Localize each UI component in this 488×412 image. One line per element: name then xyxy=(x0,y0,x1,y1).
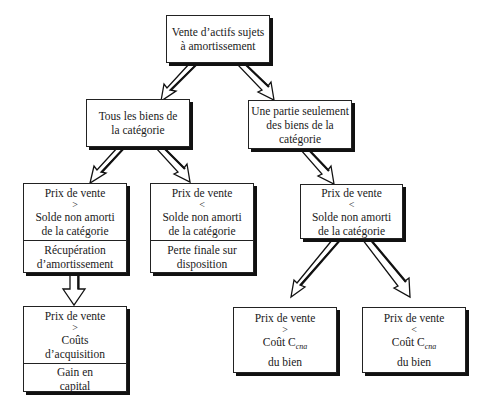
result-section: Perte finale sur disposition xyxy=(151,240,253,272)
condition-section: Prix de vente > Coûts d’acquisition xyxy=(24,307,126,363)
result-text: Perte finale sur xyxy=(167,243,237,257)
result-text: capital xyxy=(60,379,91,393)
condition-section: Prix de vente < Solde non amorti de la c… xyxy=(151,184,253,240)
arrow-gt-balance-to-acquisition-icon xyxy=(63,273,85,305)
node-text: la catégorie xyxy=(111,123,164,137)
node-root-sale-of-depreciable-assets: Vente d’actifs sujets à amortissement xyxy=(166,15,270,63)
result-text: Récupération xyxy=(44,243,105,257)
operator-text: < xyxy=(349,200,355,210)
node-part-assets: Une partie seulement des biens de la cat… xyxy=(248,100,352,149)
operator-text: < xyxy=(411,325,417,335)
arrow-root-to-part-assets-icon xyxy=(236,63,274,100)
node-price-gt-acquisition: Prix de vente > Coûts d’acquisition Gain… xyxy=(23,306,127,392)
node-text: des biens de la xyxy=(266,118,333,132)
node-text: Tous les biens de xyxy=(99,109,178,123)
arrow-root-to-all-assets-icon xyxy=(161,63,198,101)
arrow-all-to-lt-balance-icon xyxy=(155,147,190,182)
operator-text: < xyxy=(199,200,205,210)
node-text: d’acquisition xyxy=(45,347,105,361)
condition-section: Prix de vente > Solde non amorti de la c… xyxy=(24,184,126,240)
node-text: du bien xyxy=(268,355,302,369)
result-text: disposition xyxy=(177,257,227,271)
node-price-lt-cost: Prix de vente < Coût Ccna du bien xyxy=(362,307,466,373)
node-text: catégorie xyxy=(279,132,321,146)
node-text: Solde non amorti xyxy=(35,210,114,224)
node-text: à amortissement xyxy=(180,39,255,53)
node-text: Solde non amorti xyxy=(162,210,241,224)
operator-text: > xyxy=(282,325,288,335)
result-section: Récupération d’amortissement xyxy=(24,240,126,272)
node-text: de la catégorie xyxy=(318,224,385,238)
node-text: du bien xyxy=(397,355,431,369)
result-section: Gain en capital xyxy=(24,363,126,394)
node-text: Coût Ccna xyxy=(392,335,436,354)
arrow-all-to-gt-balance-icon xyxy=(90,147,125,183)
node-text: Solde non amorti xyxy=(312,210,391,224)
node-price-gt-balance: Prix de vente > Solde non amorti de la c… xyxy=(23,183,127,273)
node-text: Vente d’actifs sujets xyxy=(172,25,265,39)
operator-text: > xyxy=(72,200,78,210)
arrow-part-to-lt-balance-icon xyxy=(300,149,334,184)
operator-text: > xyxy=(72,323,78,333)
arrow-lt-balance-to-gt-cost-icon xyxy=(291,239,341,297)
result-text: Gain en xyxy=(57,365,93,379)
node-text: Prix de vente xyxy=(45,309,106,323)
node-text: Prix de vente xyxy=(384,311,445,325)
node-price-gt-cost: Prix de vente > Coût Ccna du bien xyxy=(233,307,337,373)
node-text: Coût Ccna xyxy=(263,335,307,354)
node-all-assets: Tous les biens de la catégorie xyxy=(86,99,190,147)
node-text: Prix de vente xyxy=(45,186,106,200)
arrow-lt-balance-to-lt-cost-icon xyxy=(362,239,410,297)
node-text: Prix de vente xyxy=(255,311,316,325)
result-text: d’amortissement xyxy=(37,257,114,271)
node-text: Coûts xyxy=(62,333,89,347)
node-text: de la catégorie xyxy=(41,224,108,238)
node-price-lt-balance: Prix de vente < Solde non amorti de la c… xyxy=(150,183,254,273)
node-text: Une partie seulement xyxy=(251,104,349,118)
node-text: de la catégorie xyxy=(168,224,235,238)
node-text: Prix de vente xyxy=(172,186,233,200)
node-part-price-lt-balance: Prix de vente < Solde non amorti de la c… xyxy=(300,184,403,239)
node-text: Prix de vente xyxy=(321,186,382,200)
